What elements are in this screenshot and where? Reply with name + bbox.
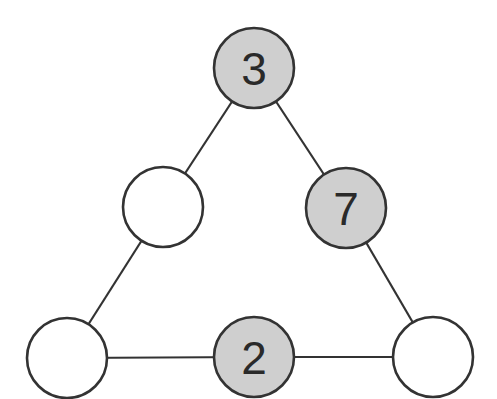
node-circle — [393, 317, 473, 397]
node-circle — [123, 167, 203, 247]
node-circle — [27, 318, 107, 398]
node-bottom-middle: 2 — [214, 317, 294, 397]
node-label: 7 — [333, 183, 359, 235]
node-label: 2 — [241, 332, 267, 384]
node-bottom-right — [393, 317, 473, 397]
triangle-number-diagram: 372 — [0, 0, 497, 399]
node-mid-left — [123, 167, 203, 247]
nodes: 372 — [27, 28, 473, 398]
node-mid-right: 7 — [306, 168, 386, 248]
node-label: 3 — [241, 43, 267, 95]
node-top: 3 — [214, 28, 294, 108]
node-bottom-left — [27, 318, 107, 398]
